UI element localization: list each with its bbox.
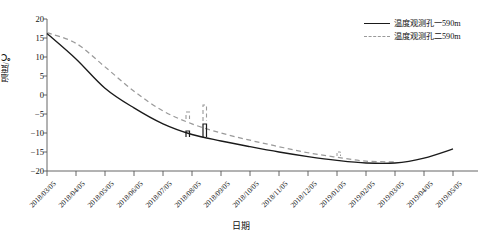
legend-item-borehole-1: 温度观测孔一590m [364, 17, 482, 30]
legend-item-borehole-2: 温度观测孔二590m [364, 30, 482, 43]
series-2-step-artifact [186, 112, 190, 119]
dashed-line-icon [364, 32, 390, 42]
legend: 温度观测孔一590m 温度观测孔二590m [364, 17, 482, 43]
legend-label: 温度观测孔二590m [394, 30, 461, 43]
series-2-spike-artifact [203, 105, 207, 121]
series-line-borehole-2 [47, 33, 395, 162]
y-axis-ticks [43, 19, 47, 171]
legend-label: 温度观测孔一590m [394, 17, 461, 30]
series-1-step-artifact [186, 131, 190, 137]
series-line-borehole-1 [47, 33, 453, 163]
series-2-late-artifact [337, 152, 341, 156]
series-1-spike-artifact [203, 124, 207, 137]
solid-line-icon [364, 19, 390, 29]
temperature-time-series-chart: 温度/℃ 日期 20 15 10 5 0 −5 −10 −15 −20 2018… [0, 0, 482, 239]
x-axis-ticks [47, 171, 453, 176]
